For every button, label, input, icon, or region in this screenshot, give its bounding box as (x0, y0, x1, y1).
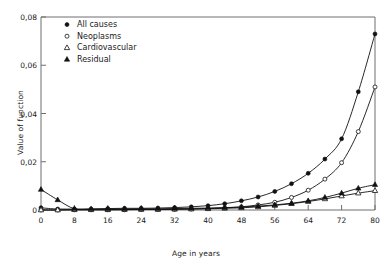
x-tick-label: 24 (136, 216, 146, 225)
data-point-marker (64, 57, 69, 62)
data-point-marker (239, 199, 243, 203)
data-point-marker (273, 189, 277, 193)
legend-label: Residual (77, 55, 111, 64)
x-tick-label: 16 (103, 216, 113, 225)
chart-legend: All causesNeoplasmsCardiovascularResidua… (64, 20, 137, 64)
data-point-marker (65, 34, 69, 38)
y-tick-label: 0,08 (20, 13, 37, 22)
x-tick-label: 80 (370, 216, 380, 225)
data-point-marker (356, 90, 360, 94)
x-tick-label: 48 (237, 216, 247, 225)
data-point-marker (356, 130, 360, 134)
series-neoplasms (39, 85, 377, 212)
data-point-marker (256, 195, 260, 199)
x-tick-label: 0 (39, 216, 44, 225)
data-point-marker (340, 161, 344, 165)
data-point-marker (306, 188, 310, 192)
data-point-marker (372, 188, 377, 193)
series-residual (38, 182, 377, 211)
data-point-marker (373, 85, 377, 89)
data-point-marker (323, 177, 327, 181)
y-tick-label: 0,06 (20, 61, 37, 70)
data-point-marker (290, 182, 294, 186)
x-tick-label: 40 (203, 216, 213, 225)
data-point-marker (373, 32, 377, 36)
data-point-marker (55, 197, 60, 202)
x-tick-label: 56 (270, 216, 280, 225)
line-chart-canvas: 00,020,040,060,0808162432404856647280All… (0, 0, 392, 269)
data-point-marker (306, 171, 310, 175)
x-tick-label: 8 (72, 216, 77, 225)
y-tick-label: 0 (32, 206, 37, 215)
legend-label: Neoplasms (77, 32, 121, 41)
x-axis-title: Age in years (0, 249, 392, 258)
data-point-marker (323, 157, 327, 161)
x-tick-label: 72 (337, 216, 347, 225)
data-point-marker (372, 182, 377, 187)
series-line (41, 87, 375, 210)
x-tick-label: 32 (170, 216, 180, 225)
data-point-marker (340, 137, 344, 141)
data-point-marker (65, 23, 69, 27)
x-tick-label: 64 (303, 216, 313, 225)
y-axis-title: Value of function (16, 73, 25, 173)
legend-label: Cardiovascular (77, 43, 137, 52)
chart-figure: 00,020,040,060,0808162432404856647280All… (0, 0, 392, 269)
data-point-marker (64, 45, 69, 50)
data-point-marker (38, 187, 43, 192)
legend-label: All causes (77, 20, 117, 29)
data-point-marker (290, 195, 294, 199)
